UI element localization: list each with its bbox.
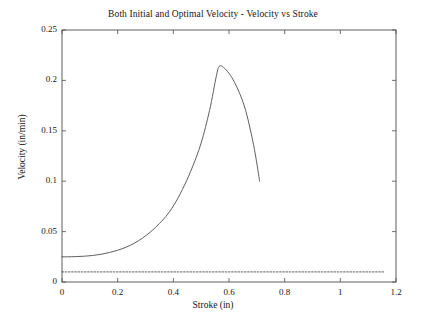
axis-box [62, 30, 396, 282]
series-line-1 [62, 66, 260, 257]
data-series [62, 66, 385, 272]
y-tick-label: 0.1 [17, 175, 57, 185]
x-tick-label: 1 [320, 287, 360, 297]
axis-ticks [62, 30, 396, 282]
plot-area [0, 0, 426, 324]
x-tick-label: 0.8 [265, 287, 305, 297]
y-tick-label: 0.05 [17, 226, 57, 236]
x-tick-label: 0.4 [153, 287, 193, 297]
x-tick-label: 1.2 [376, 287, 416, 297]
x-tick-label: 0.2 [98, 287, 138, 297]
y-tick-label: 0 [17, 276, 57, 286]
y-tick-label: 0.25 [17, 24, 57, 34]
x-tick-label: 0.6 [209, 287, 249, 297]
y-tick-label: 0.2 [17, 74, 57, 84]
x-tick-label: 0 [42, 287, 82, 297]
y-tick-label: 0.15 [17, 125, 57, 135]
chart-figure: Both Initial and Optimal Velocity - Velo… [0, 0, 426, 324]
